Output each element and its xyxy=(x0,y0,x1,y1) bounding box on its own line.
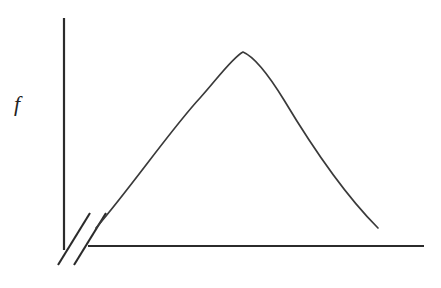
plot-canvas xyxy=(0,0,441,288)
function-plot-figure: f xyxy=(0,0,441,288)
y-axis-label: f xyxy=(14,93,20,115)
function-curve xyxy=(96,52,378,228)
axis-break-slash-1 xyxy=(58,213,90,265)
axis-break-icon xyxy=(58,213,106,265)
